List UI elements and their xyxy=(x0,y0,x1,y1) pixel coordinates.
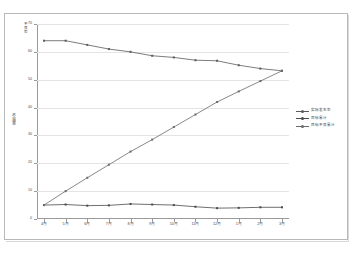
data-point-marker xyxy=(259,206,261,208)
plot-canvas: 0102030405060704月5月6月7月8月9月10月11月12月1月2月… xyxy=(37,24,289,219)
data-point-marker xyxy=(259,80,261,82)
data-point-marker xyxy=(194,206,196,208)
chart-plot-area: 0102030405060704月5月6月7月8月9月10月11月12月1月2月… xyxy=(37,24,289,219)
data-point-marker xyxy=(130,203,132,205)
x-axis-tick-label: 1月 xyxy=(236,223,242,227)
legend-item[interactable]: 实际发生率 xyxy=(296,109,335,113)
x-axis-tick-label: 12月 xyxy=(213,223,221,227)
x-axis-tick-label: 5月 xyxy=(63,223,69,227)
data-point-marker xyxy=(65,204,67,206)
data-point-marker xyxy=(108,164,110,166)
x-axis-tick-label: 10月 xyxy=(170,223,178,227)
legend-item-label: 目标不良累计 xyxy=(311,124,335,128)
data-point-marker xyxy=(216,60,218,62)
data-point-marker xyxy=(216,101,218,103)
y-axis-tick-label: 70 xyxy=(28,22,32,26)
data-point-marker xyxy=(194,114,196,116)
y-axis-unit-label: 不良率 xyxy=(23,22,27,34)
y-axis-title: 不良率 xyxy=(11,113,15,125)
series-line xyxy=(44,41,282,71)
x-axis-tick-label: 4月 xyxy=(41,223,47,227)
data-point-marker xyxy=(130,151,132,153)
data-point-marker xyxy=(151,204,153,206)
legend-item[interactable]: 目标不良累计 xyxy=(296,124,335,128)
data-point-marker xyxy=(86,44,88,46)
y-axis-tick-label: 10 xyxy=(28,189,32,193)
data-point-marker xyxy=(194,59,196,61)
y-axis-tick-label: 20 xyxy=(28,161,32,165)
x-axis-tick-label: 6月 xyxy=(84,223,90,227)
data-point-marker xyxy=(151,139,153,141)
legend-item-label: 目标累计 xyxy=(311,117,327,121)
y-axis-tick-label: 60 xyxy=(28,50,32,54)
data-point-marker xyxy=(281,206,283,208)
data-point-marker xyxy=(65,40,67,42)
chart-page: 不良率 不良率 0102030405060704月5月6月7月8月9月10月11… xyxy=(0,0,356,254)
data-point-marker xyxy=(108,204,110,206)
legend-line-icon xyxy=(296,124,309,128)
data-point-marker xyxy=(238,64,240,66)
legend-line-icon xyxy=(296,109,309,113)
y-axis-tick-label: 0 xyxy=(30,217,32,221)
data-point-marker xyxy=(281,70,283,72)
data-point-marker xyxy=(65,190,67,192)
legend-item[interactable]: 目标累计 xyxy=(296,117,335,121)
x-axis-tick-label: 11月 xyxy=(191,223,199,227)
y-axis-tick-label: 40 xyxy=(28,106,32,110)
series-line xyxy=(44,204,282,208)
data-point-marker xyxy=(130,51,132,53)
data-point-marker xyxy=(43,40,45,42)
data-point-marker xyxy=(108,48,110,50)
y-axis-tick-label: 50 xyxy=(28,78,32,82)
y-axis-tick-label: 30 xyxy=(28,134,32,138)
data-point-marker xyxy=(43,204,45,206)
data-point-marker xyxy=(151,55,153,57)
legend-item-label: 实际发生率 xyxy=(311,109,331,113)
data-point-marker xyxy=(238,207,240,209)
y-axis-tick xyxy=(34,219,37,220)
series-layer xyxy=(37,24,289,219)
data-point-marker xyxy=(216,207,218,209)
data-point-marker xyxy=(173,56,175,58)
data-point-marker xyxy=(238,90,240,92)
series-line xyxy=(44,71,282,205)
data-point-marker xyxy=(259,68,261,70)
frame-shadow-right xyxy=(348,15,349,241)
x-axis-tick-label: 8月 xyxy=(127,223,133,227)
data-point-marker xyxy=(173,126,175,128)
data-point-marker xyxy=(173,204,175,206)
chart-legend: 实际发生率目标累计目标不良累计 xyxy=(296,109,335,128)
data-point-marker xyxy=(86,205,88,207)
frame-shadow-bottom xyxy=(6,241,349,242)
legend-line-icon xyxy=(296,117,309,121)
x-axis-tick-label: 7月 xyxy=(106,223,112,227)
x-axis-tick-label: 9月 xyxy=(149,223,155,227)
data-point-marker xyxy=(86,177,88,179)
x-axis-tick-label: 3月 xyxy=(279,223,285,227)
x-axis-tick-label: 2月 xyxy=(257,223,263,227)
